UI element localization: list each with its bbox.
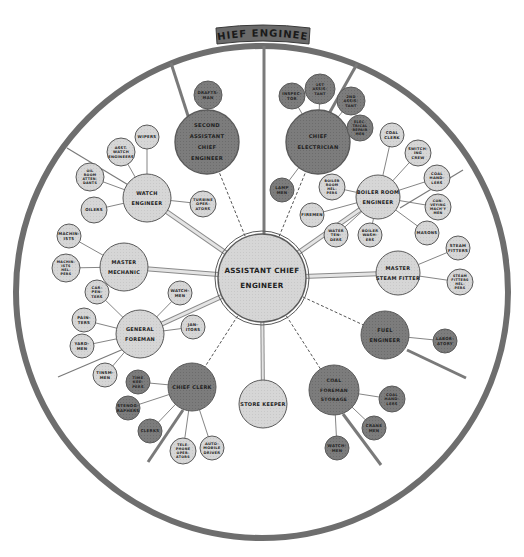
chief-electrician-node[interactable]: CHIEFELECTRICIAN: [286, 110, 350, 174]
store-keeper-node-label: STORE KEEPER: [240, 401, 286, 407]
chief-electrician-sub-2-label: TANT: [345, 104, 357, 108]
chief-electrician-sub-0[interactable]: INSPEC-TOR: [279, 83, 305, 109]
general-foreman-node-label: FOREMAN: [125, 336, 155, 342]
general-foreman-sub-2[interactable]: YARD-MEN: [70, 334, 94, 358]
coal-foreman-sub-0[interactable]: COALHAND-LERS: [379, 386, 405, 412]
chief-clerk-sub-3[interactable]: TELE-PHONEOPER-ATORS: [170, 438, 196, 464]
master-steam-fitter-sub-0[interactable]: STEAMFITTERS: [446, 236, 470, 260]
boiler-room-engineer-sub-5-label: ERS: [366, 238, 375, 242]
watch-engineer-node[interactable]: WATCHENGINEER: [123, 174, 171, 222]
fuel-engineer-sub-0[interactable]: LABOR-ATORY: [433, 329, 457, 353]
boiler-room-engineer-sub-7-label: FIREMEN: [301, 212, 323, 217]
boiler-room-engineer-sub-6-label: WATER: [328, 229, 343, 233]
boiler-room-engineer-sub-4-label: MASONS: [417, 230, 438, 235]
boiler-room-engineer-sub-2-label: COAL: [431, 172, 443, 176]
chief-electrician-sub-4[interactable]: LAMPMEN: [270, 178, 294, 202]
second-asst-sub-0[interactable]: DRAFTS-MAN: [194, 81, 222, 109]
boiler-room-engineer-node[interactable]: BOILER ROOMENGINEER: [356, 175, 400, 219]
coal-foreman-node-label: FOREMAN: [320, 388, 348, 393]
fuel-engineer-node-label: ENGINEER: [370, 337, 401, 343]
second-asst-node[interactable]: SECONDASSISTANTCHIEFENGINEER: [175, 110, 239, 174]
chief-clerk-sub-0-label: PERS: [132, 385, 144, 389]
watch-engineer-sub-1-label: ASST.: [115, 146, 128, 150]
boiler-room-engineer-sub-8[interactable]: BOILERROOMHEL-PERS: [319, 174, 345, 200]
boiler-room-engineer-sub-0[interactable]: COALCLERK: [380, 123, 404, 147]
boiler-room-engineer-sub-6-label: TEN-: [331, 233, 342, 237]
general-foreman-sub-4[interactable]: WATCH-MEN: [168, 281, 192, 305]
master-mechanic-sub-0[interactable]: MACHIN-ISTS: [57, 224, 81, 248]
fuel-engineer-node-circle: [361, 311, 409, 359]
master-steam-fitter-sub-1[interactable]: STEAMFITTERSHEL-PERS: [447, 269, 473, 295]
store-keeper-node[interactable]: STORE KEEPER: [239, 380, 287, 428]
boiler-room-engineer-sub-5[interactable]: BOILERWASH-ERS: [358, 223, 382, 247]
fuel-engineer-sub-0-label: ATORY: [437, 341, 453, 346]
chief-clerk-sub-4-label: AUTO-: [205, 442, 219, 446]
boiler-room-engineer-sub-1-label: ING: [414, 151, 422, 155]
boiler-room-engineer-sub-5-label: WASH-: [362, 233, 377, 237]
chief-engineer-title: CHIEF ENGINEER: [0, 0, 309, 42]
chief-electrician-sub-1-label: TANT: [314, 92, 326, 96]
assistant-chief-engineer-node[interactable]: ASSISTANT CHIEFENGINEER: [218, 234, 306, 322]
boiler-room-engineer-sub-8-label: PERS: [327, 191, 338, 195]
master-mechanic-node-label: MECHANIC: [108, 269, 140, 275]
watch-engineer-sub-3[interactable]: OILERS: [81, 197, 107, 223]
watch-engineer-sub-0[interactable]: WIPERS: [135, 125, 159, 149]
general-foreman-node[interactable]: GENERALFOREMAN: [116, 310, 164, 358]
coal-foreman-node[interactable]: COALFOREMANSTORAGE: [309, 365, 359, 415]
watch-engineer-sub-1[interactable]: ASST.WATCHENGINEERS: [107, 138, 135, 166]
chief-electrician-sub-2-label: ASSIS-: [343, 99, 358, 103]
coal-foreman-node-label: STORAGE: [321, 397, 347, 402]
boiler-room-engineer-sub-2[interactable]: COALHAND-LERS: [424, 165, 450, 191]
second-asst-node-label: CHIEF: [198, 144, 217, 150]
general-foreman-sub-0[interactable]: CAR-PEN-TERS: [85, 280, 109, 304]
boiler-room-engineer-node-circle: [356, 175, 400, 219]
coal-foreman-sub-1[interactable]: CRANEMEN: [362, 416, 386, 440]
chief-electrician-sub-1[interactable]: 1STASSIS-TANT: [305, 74, 335, 104]
general-foreman-sub-1[interactable]: PAIN-TERS: [72, 308, 96, 332]
chief-clerk-sub-2[interactable]: CLERKS: [138, 419, 162, 443]
chief-electrician-node-label: ELECTRICIAN: [297, 144, 338, 150]
chief-electrician-sub-2-label: 2ND: [346, 95, 355, 99]
boiler-room-engineer-sub-3[interactable]: CON-VEYINGMACH'YMEN: [425, 194, 451, 220]
chief-clerk-sub-3-label: ATORS: [176, 455, 190, 459]
watch-engineer-sub-4-label: TURBINE: [193, 198, 213, 202]
watch-engineer-sub-4-label: OPER-: [196, 202, 210, 206]
master-mechanic-sub-1-label: PERS: [61, 272, 72, 276]
master-steam-fitter-node[interactable]: MASTERSTEAM FITTER: [376, 251, 420, 295]
master-steam-fitter-node-label: STEAM FITTER: [376, 275, 420, 281]
watch-engineer-sub-0-label: WIPERS: [138, 134, 157, 139]
boiler-room-engineer-sub-4[interactable]: MASONS: [415, 221, 439, 245]
watch-engineer-node-circle: [123, 174, 171, 222]
fuel-engineer-node[interactable]: FUELENGINEER: [361, 311, 409, 359]
chief-clerk-sub-0[interactable]: TIMEKEE-PERS: [126, 370, 150, 394]
general-foreman-sub-0-label: PEN-: [92, 290, 103, 294]
boiler-room-engineer-sub-6-label: DERS: [330, 238, 342, 242]
chief-electrician-node-circle: [286, 110, 350, 174]
second-asst-node-label: ASSISTANT: [190, 133, 225, 139]
coal-foreman-node-label: COAL: [327, 378, 342, 383]
chief-clerk-node[interactable]: CHIEF CLERK: [168, 363, 216, 411]
chief-electrician-sub-3[interactable]: ELEC-TRICALREPAIRMEN: [347, 115, 373, 141]
assistant-chief-engineer-node-label: ASSISTANT CHIEF: [224, 266, 299, 275]
watch-engineer-sub-2[interactable]: OILROOMATTEN-DANTS: [76, 163, 104, 191]
fuel-engineer-node-label: FUEL: [377, 327, 393, 333]
boiler-room-engineer-sub-1[interactable]: SWITCH-INGCREW: [405, 140, 431, 166]
coal-foreman-sub-2[interactable]: WATCH-MEN: [325, 436, 349, 460]
chief-clerk-sub-1[interactable]: STENOG-RAPHERS: [116, 396, 140, 420]
watch-engineer-node-label: ENGINEER: [132, 200, 163, 206]
boiler-room-engineer-sub-6[interactable]: WATERTEN-DERS: [324, 223, 348, 247]
chief-engineer-banner[interactable]: CHIEF ENGINEER: [0, 0, 310, 44]
general-foreman-sub-3[interactable]: TINSM-MEN: [93, 363, 117, 387]
watch-engineer-sub-2-label: DANTS: [83, 181, 97, 185]
master-mechanic-node[interactable]: MASTERMECHANIC: [100, 243, 148, 291]
watch-engineer-sub-4[interactable]: TURBINEOPER-ATORS: [190, 191, 216, 217]
chief-clerk-node-label: CHIEF CLERK: [172, 384, 212, 390]
master-steam-fitter-sub-0-label: FITTERS: [448, 248, 468, 253]
chief-electrician-sub-2[interactable]: 2NDASSIS-TANT: [337, 87, 365, 115]
master-mechanic-sub-1[interactable]: MACHIN-ISTSHEL-PERS: [52, 254, 80, 282]
boiler-room-engineer-sub-7[interactable]: FIREMEN: [300, 203, 324, 227]
general-foreman-sub-5[interactable]: JAN-ITORS: [181, 315, 205, 339]
coal-foreman-sub-1-label: MEN: [369, 428, 380, 433]
chief-clerk-sub-4[interactable]: AUTO-MOBILEDRIVER: [200, 436, 224, 460]
general-foreman-sub-1-label: TERS: [78, 320, 90, 325]
